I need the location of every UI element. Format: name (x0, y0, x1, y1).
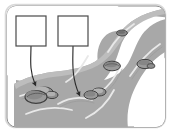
river-diagram (0, 0, 172, 133)
rock-far-upstream (117, 30, 128, 36)
figure-container (0, 0, 172, 133)
scene-clip-group (6, 5, 172, 128)
rock-upper-left-bend (104, 61, 121, 71)
label-box-left-rect[interactable] (16, 16, 46, 46)
label-box-right-rect[interactable] (58, 16, 88, 46)
label-box-left[interactable] (16, 16, 46, 46)
label-box-right[interactable] (58, 16, 88, 46)
